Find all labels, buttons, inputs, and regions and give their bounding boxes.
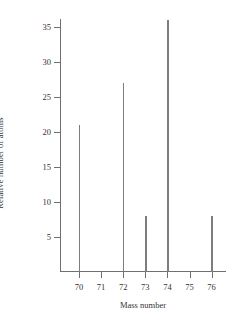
x-axis-tick-label: 74 xyxy=(155,283,179,292)
y-axis-tick xyxy=(54,97,60,98)
x-axis-tick xyxy=(101,272,102,278)
bar xyxy=(145,216,147,272)
x-axis-tick-label: 72 xyxy=(111,283,135,292)
plot-area: 5101520253035 70717273747576 xyxy=(0,0,247,326)
x-axis-tick xyxy=(212,272,213,278)
x-axis-tick-label: 71 xyxy=(89,283,113,292)
y-axis-line xyxy=(60,19,61,272)
x-axis-tick-label: 75 xyxy=(178,283,202,292)
x-axis-tick-label: 70 xyxy=(67,283,91,292)
bar xyxy=(167,20,169,272)
y-axis-tick-label: 5 xyxy=(11,233,51,242)
y-axis-tick xyxy=(54,132,60,133)
mass-spectrum-chart: Relative number of atoms 5101520253035 7… xyxy=(0,0,247,326)
y-axis-tick-label: 35 xyxy=(11,23,51,32)
y-axis-tick-label: 25 xyxy=(11,93,51,102)
y-axis-tick-label: 15 xyxy=(11,163,51,172)
y-axis-tick xyxy=(54,62,60,63)
x-axis-tick-label: 73 xyxy=(133,283,157,292)
x-axis-tick xyxy=(145,272,146,278)
x-axis-tick xyxy=(167,272,168,278)
y-axis-tick xyxy=(54,27,60,28)
y-axis-tick xyxy=(54,167,60,168)
y-axis-tick-label: 10 xyxy=(11,198,51,207)
bar xyxy=(79,125,81,272)
x-axis-title: Mass number xyxy=(60,300,226,310)
y-axis-tick xyxy=(54,202,60,203)
x-axis-tick-label: 76 xyxy=(200,283,224,292)
x-axis-tick xyxy=(190,272,191,278)
y-axis-tick xyxy=(54,237,60,238)
x-axis-tick xyxy=(79,272,80,278)
x-axis-line xyxy=(60,271,226,272)
y-axis-tick-label: 20 xyxy=(11,128,51,137)
y-axis-tick-label: 30 xyxy=(11,58,51,67)
bar xyxy=(211,216,213,272)
bar xyxy=(123,83,125,272)
x-axis-tick xyxy=(123,272,124,278)
